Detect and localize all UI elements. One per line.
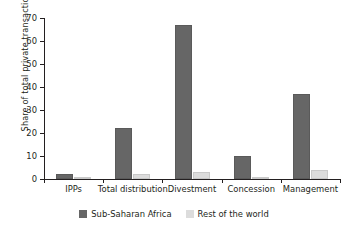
x-tick (222, 179, 223, 183)
bar-pair (162, 18, 221, 179)
bar-pair (222, 18, 281, 179)
legend-label: Sub-Saharan Africa (91, 209, 171, 219)
x-axis-label: Management (267, 184, 348, 195)
bar-groups: IPPsTotal distributionDivestmentConcessi… (44, 18, 340, 179)
y-tick-label: 10 (26, 152, 37, 160)
bar-sub-saharan-africa[interactable] (175, 25, 192, 179)
bar-group: Concession (222, 18, 281, 179)
x-axis-line (44, 179, 340, 180)
y-tick-label: 60 (26, 37, 37, 45)
bar-group: Management (281, 18, 340, 179)
y-tick-label: 0 (32, 175, 37, 183)
y-tick-label: 50 (26, 60, 37, 68)
bar-rest-of-the-world[interactable] (133, 174, 150, 179)
bar-group: Divestment (162, 18, 221, 179)
y-tick-label: 20 (26, 129, 37, 137)
legend-item[interactable]: Rest of the world (186, 209, 269, 219)
bar-rest-of-the-world[interactable] (311, 170, 328, 179)
bar-sub-saharan-africa[interactable] (115, 128, 132, 179)
bar-rest-of-the-world[interactable] (74, 177, 91, 179)
y-tick-label: 30 (26, 106, 37, 114)
y-tick-label: 40 (26, 83, 37, 91)
bar-rest-of-the-world[interactable] (193, 172, 210, 179)
x-tick (162, 179, 163, 183)
bar-chart: Share of total private transactions (%) … (0, 0, 348, 230)
x-tick (103, 179, 104, 183)
x-tick (340, 179, 341, 183)
bar-pair (103, 18, 162, 179)
legend-swatch-icon (79, 210, 87, 218)
bar-sub-saharan-africa[interactable] (293, 94, 310, 179)
x-tick (281, 179, 282, 183)
bar-group: Total distribution (103, 18, 162, 179)
bar-sub-saharan-africa[interactable] (56, 174, 73, 179)
legend-label: Rest of the world (198, 209, 269, 219)
chart-legend: Sub-Saharan AfricaRest of the world (0, 209, 348, 219)
bar-group: IPPs (44, 18, 103, 179)
bar-rest-of-the-world[interactable] (252, 177, 269, 179)
legend-swatch-icon (186, 210, 194, 218)
bar-sub-saharan-africa[interactable] (234, 156, 251, 179)
legend-item[interactable]: Sub-Saharan Africa (79, 209, 171, 219)
x-tick (44, 179, 45, 183)
bar-pair (44, 18, 103, 179)
bar-pair (281, 18, 340, 179)
y-tick-label: 70 (26, 14, 37, 22)
plot-area: 010203040506070 IPPsTotal distributionDi… (44, 18, 340, 180)
